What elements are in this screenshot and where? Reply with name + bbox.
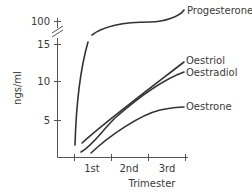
series-label-oestrone: Oestrone [186, 101, 232, 112]
oestradiol-curve [81, 72, 184, 152]
y-tick-label: 100 [31, 16, 50, 27]
series-label-oestriol: Oestriol [186, 55, 225, 66]
series-label-progesterone: Progesterone [187, 5, 252, 16]
hormone-levels-chart: 100 15 10 5 ngs/ml 1st 2nd 3rd Trimester… [0, 0, 252, 195]
x-tick-label: 3rd [159, 163, 176, 174]
x-axis-title: Trimester [128, 178, 177, 189]
y-tick-label: 15 [37, 39, 50, 50]
y-axis-title: ngs/ml [12, 71, 23, 105]
series-label-oestradiol: Oestradiol [186, 67, 237, 78]
oestrone-curve [91, 107, 184, 153]
y-tick-label: 10 [37, 76, 50, 87]
progesterone-curve [75, 42, 88, 145]
y-tick-label: 5 [44, 115, 50, 126]
progesterone-curve-upper [92, 10, 184, 35]
x-tick-label: 1st [84, 163, 100, 174]
x-tick-label: 2nd [119, 163, 138, 174]
